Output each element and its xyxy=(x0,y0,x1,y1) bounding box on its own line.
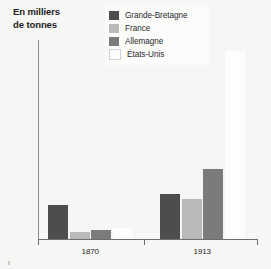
legend-item-label: Grande-Bretagne xyxy=(125,11,188,20)
legend-item: France xyxy=(109,22,206,35)
scan-artifact xyxy=(8,261,10,265)
x-axis-tick-middle xyxy=(144,239,145,245)
legend-swatch-icon xyxy=(109,11,119,20)
x-axis-line xyxy=(38,239,258,240)
legend-swatch-icon xyxy=(109,24,119,33)
bar xyxy=(160,194,180,239)
bar xyxy=(203,169,223,240)
x-axis-tick-left xyxy=(38,239,39,245)
y-axis-line xyxy=(38,40,39,239)
bar xyxy=(48,205,68,239)
bar xyxy=(225,51,245,239)
x-axis-group-label: 1913 xyxy=(146,247,259,256)
x-axis-group-label: 1870 xyxy=(34,247,147,256)
bar xyxy=(113,228,133,239)
bar xyxy=(91,230,111,239)
plot-area: 35 00030 00025 00020 00015 00010 0005000… xyxy=(38,40,258,239)
legend-item-label: France xyxy=(125,24,150,33)
x-axis-tick-right xyxy=(257,239,258,245)
bar xyxy=(182,199,202,239)
bar-chart: En milliers de tonnes Grande-BretagneFra… xyxy=(0,0,271,269)
legend-item: Grande-Bretagne xyxy=(109,9,206,22)
bar xyxy=(70,232,90,239)
